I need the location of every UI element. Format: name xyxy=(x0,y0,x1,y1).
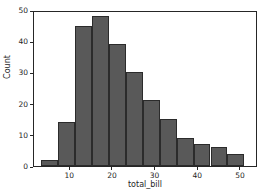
histogram-bar xyxy=(41,160,58,166)
x-tick-label: 50 xyxy=(228,171,252,180)
histogram-bar xyxy=(126,72,143,166)
y-tick-label: 40 xyxy=(18,37,28,46)
x-tick-mark xyxy=(197,167,198,170)
x-tick-mark xyxy=(69,167,70,170)
y-tick-label: 0 xyxy=(23,162,28,171)
histogram-bar xyxy=(109,44,126,166)
histogram-bar xyxy=(160,119,177,166)
plot-axes xyxy=(33,11,257,167)
histogram-bar xyxy=(58,122,75,166)
x-axis-label: total_bill xyxy=(33,180,257,189)
histogram-figure: Count 01020304050 1020304050 total_bill xyxy=(0,0,276,194)
x-tick-label: 40 xyxy=(185,171,209,180)
x-axis-ticks: 1020304050 xyxy=(33,167,257,181)
y-tick-label: 30 xyxy=(18,68,28,77)
x-tick-label: 30 xyxy=(143,171,167,180)
histogram-bar xyxy=(143,100,160,166)
x-tick-label: 10 xyxy=(57,171,81,180)
x-tick-mark xyxy=(111,167,112,170)
x-tick-mark xyxy=(239,167,240,170)
histogram-bar xyxy=(194,144,211,166)
x-tick-mark xyxy=(154,167,155,170)
y-tick-label: 50 xyxy=(18,6,28,15)
y-tick-label: 10 xyxy=(18,131,28,140)
y-tick-label: 20 xyxy=(18,100,28,109)
histogram-bar xyxy=(75,26,92,166)
y-axis-ticks: 01020304050 xyxy=(0,11,33,167)
histogram-bar xyxy=(92,16,109,166)
histogram-bar xyxy=(211,147,228,166)
x-tick-label: 20 xyxy=(100,171,124,180)
histogram-bar xyxy=(227,154,244,166)
plot-area xyxy=(34,12,256,166)
histogram-bar xyxy=(177,138,194,166)
